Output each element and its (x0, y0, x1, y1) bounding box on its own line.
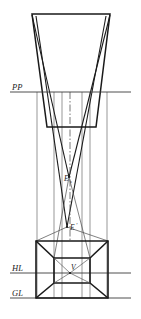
label-pp: PP (11, 82, 22, 92)
label-hl: HL (11, 263, 23, 273)
perspective-diagram-canvas: PP HL GL E s E ' V (0, 0, 141, 319)
label-es-subscript: s (70, 179, 72, 184)
label-eprime: E (69, 223, 75, 232)
label-gl: GL (12, 288, 23, 298)
diagram-svg: PP HL GL E s E ' V (0, 0, 141, 319)
marker-eprime (66, 226, 68, 228)
label-es: E (63, 174, 69, 183)
marker-v (69, 272, 71, 274)
